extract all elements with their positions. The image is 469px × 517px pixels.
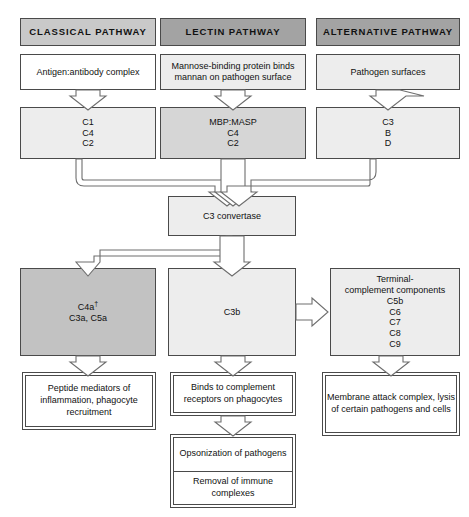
arrow-lectin-trigger-to-components <box>215 90 251 110</box>
complement-pathway-diagram: CLASSICAL PATHWAY LECTIN PATHWAY ALTERNA… <box>0 0 469 517</box>
connector-classical-to-convertase <box>76 159 245 206</box>
arrow-c3b-to-terminal <box>296 298 328 326</box>
connector-convertase-to-anaphylatoxins <box>76 236 232 276</box>
arrow-c3b-to-outcome <box>215 356 251 376</box>
connector-layer <box>0 0 469 517</box>
arrow-classical-trigger-to-components <box>70 90 106 110</box>
arrow-alternative-trigger-to-components <box>370 90 424 110</box>
arrow-binds-to-opsonization <box>215 416 251 436</box>
arrow-terminal-to-outcome <box>373 356 409 376</box>
arrow-anaphylatoxins-to-outcome <box>70 356 106 376</box>
